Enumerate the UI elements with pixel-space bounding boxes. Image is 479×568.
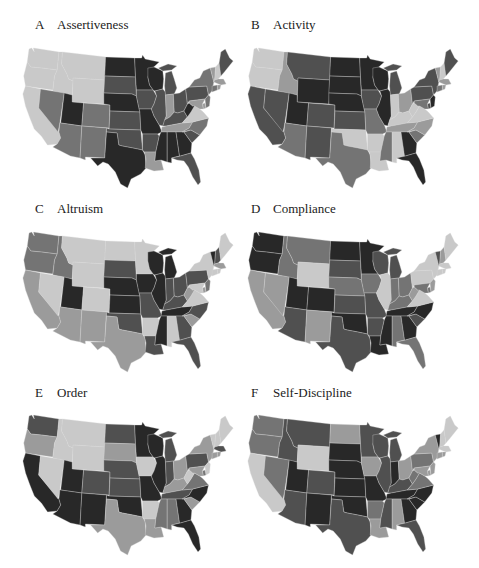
- states-group: [248, 232, 458, 372]
- states-group: [23, 415, 233, 555]
- state-ks: [109, 478, 141, 497]
- panel-title: BActivity: [251, 17, 316, 33]
- state-ks: [334, 478, 366, 497]
- state-ri: [217, 85, 221, 90]
- state-ma: [214, 79, 226, 85]
- state-ks: [109, 111, 141, 130]
- state-mt: [287, 236, 331, 265]
- state-mt: [62, 419, 106, 448]
- state-co: [307, 470, 335, 495]
- state-fl: [172, 153, 201, 185]
- state-co: [307, 287, 335, 312]
- state-wy: [72, 262, 105, 288]
- state-mt: [287, 419, 331, 448]
- panel-label: Assertiveness: [57, 17, 129, 32]
- state-wy: [297, 445, 330, 471]
- state-nm: [305, 493, 331, 527]
- state-fl: [397, 153, 426, 185]
- state-wa: [252, 232, 284, 254]
- panel-title: FSelf-Discipline: [251, 385, 352, 401]
- state-mt: [287, 52, 331, 81]
- state-nd: [330, 241, 361, 261]
- us-map: [247, 46, 459, 188]
- us-map: [22, 413, 234, 555]
- panel-title: CAltruism: [35, 201, 103, 217]
- panel-label: Altruism: [57, 201, 103, 216]
- state-me: [219, 416, 233, 443]
- state-nd: [105, 241, 136, 261]
- state-ct: [437, 85, 442, 92]
- state-co: [307, 103, 335, 128]
- state-ks: [109, 295, 141, 314]
- state-nm: [80, 310, 106, 344]
- us-map: [22, 46, 234, 188]
- states-group: [23, 232, 233, 372]
- state-ct: [212, 269, 217, 276]
- states-group: [23, 48, 233, 188]
- panel-d: DCompliance: [251, 201, 476, 385]
- state-wy: [72, 78, 105, 104]
- panel-label: Activity: [273, 17, 316, 32]
- state-co: [82, 287, 110, 312]
- panel-b: BActivity: [251, 17, 476, 201]
- state-fl: [172, 520, 201, 552]
- state-ks: [334, 295, 366, 314]
- panel-c: CAltruism: [35, 201, 260, 385]
- panel-label: Self-Discipline: [273, 385, 352, 400]
- state-wy: [72, 445, 105, 471]
- panel-letter: C: [35, 201, 57, 217]
- state-fl: [397, 520, 426, 552]
- state-ma: [214, 263, 226, 269]
- state-ri: [217, 452, 221, 457]
- state-wa: [27, 48, 59, 70]
- state-wa: [252, 415, 284, 437]
- state-wy: [297, 262, 330, 288]
- state-ct: [437, 269, 442, 276]
- state-mt: [62, 52, 106, 81]
- us-map: [22, 230, 234, 372]
- state-mt: [62, 236, 106, 265]
- state-ma: [439, 263, 451, 269]
- state-me: [444, 233, 458, 260]
- state-ma: [214, 446, 226, 452]
- state-fl: [397, 337, 426, 369]
- state-ct: [212, 85, 217, 92]
- panel-title: AAssertiveness: [35, 17, 129, 33]
- state-nm: [80, 126, 106, 160]
- panel-label: Order: [57, 385, 87, 400]
- state-ri: [442, 85, 446, 90]
- state-ri: [217, 269, 221, 274]
- state-ma: [439, 446, 451, 452]
- panel-letter: D: [251, 201, 273, 217]
- state-co: [82, 470, 110, 495]
- state-fl: [172, 337, 201, 369]
- state-me: [444, 416, 458, 443]
- state-wa: [27, 415, 59, 437]
- state-nm: [305, 310, 331, 344]
- state-wy: [297, 78, 330, 104]
- panel-letter: F: [251, 385, 273, 401]
- state-me: [219, 233, 233, 260]
- state-ma: [439, 79, 451, 85]
- state-ks: [334, 111, 366, 130]
- panel-letter: B: [251, 17, 273, 33]
- panel-a: AAssertiveness: [35, 17, 260, 201]
- state-ri: [442, 452, 446, 457]
- states-group: [248, 48, 458, 188]
- panel-title: EOrder: [35, 385, 87, 401]
- state-nd: [330, 57, 361, 77]
- panel-e: EOrder: [35, 385, 260, 568]
- state-wa: [27, 232, 59, 254]
- panel-title: DCompliance: [251, 201, 336, 217]
- state-me: [219, 49, 233, 76]
- state-ct: [212, 452, 217, 459]
- state-nm: [305, 126, 331, 160]
- state-nm: [80, 493, 106, 527]
- state-nd: [105, 57, 136, 77]
- panel-f: FSelf-Discipline: [251, 385, 476, 568]
- state-me: [444, 49, 458, 76]
- panel-label: Compliance: [273, 201, 336, 216]
- panel-letter: A: [35, 17, 57, 33]
- state-co: [82, 103, 110, 128]
- state-nd: [105, 424, 136, 444]
